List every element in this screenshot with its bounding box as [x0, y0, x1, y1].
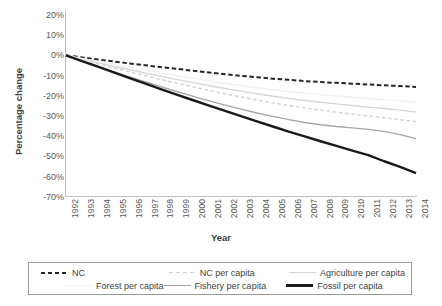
- x-tick-label: 1997: [150, 199, 160, 218]
- x-tick-label: 2003: [245, 199, 255, 218]
- legend-label: Agriculture per capita: [320, 268, 405, 278]
- x-tick-label: 1992: [70, 199, 80, 218]
- x-axis-title: Year: [0, 232, 442, 243]
- x-tick-label: 2009: [340, 199, 350, 218]
- x-tick-label: 2013: [404, 199, 414, 218]
- legend-item-fishery-per-capita[interactable]: Fishery per capita: [164, 279, 287, 292]
- x-tick-label: 1995: [118, 199, 128, 218]
- x-tick-label: 2010: [356, 199, 366, 218]
- chart-legend: NC NC per capita Agriculture per capita …: [28, 262, 412, 295]
- legend-swatch-icon: [65, 285, 92, 287]
- legend-label: Fishery per capita: [195, 281, 267, 291]
- legend-label: Forest per capita: [96, 281, 164, 291]
- legend-label: Fossil per capita: [317, 281, 383, 291]
- x-tick-label: 2004: [261, 199, 271, 218]
- legend-row: NC NC per capita Agriculture per capita: [33, 266, 407, 279]
- x-tick-label: 1999: [181, 199, 191, 218]
- x-tick-label: 1993: [86, 199, 96, 218]
- x-tick-label: 2001: [213, 199, 223, 218]
- legend-label: NC per capita: [200, 268, 255, 278]
- legend-row: Forest per capita Fishery per capita Fos…: [33, 279, 407, 292]
- legend-item-nc[interactable]: NC: [33, 266, 169, 279]
- chart-root: Percentage change 20%10%0%-10%-20%-30%-4…: [0, 0, 442, 306]
- legend-swatch-icon: [289, 272, 316, 274]
- x-tick-label: 2006: [293, 199, 303, 218]
- legend-swatch-icon: [286, 284, 313, 287]
- legend-swatch-icon: [169, 272, 196, 274]
- x-tick-label: 1994: [102, 199, 112, 218]
- x-tick-label: 2002: [229, 199, 239, 218]
- legend-swatch-icon: [164, 285, 191, 287]
- series-line-fossil-per-capita: [66, 55, 416, 173]
- legend-item-agriculture-per-capita[interactable]: Agriculture per capita: [289, 266, 407, 279]
- x-tick-label: 2014: [420, 199, 430, 218]
- x-tick-label: 2011: [372, 199, 382, 217]
- legend-swatch-icon: [41, 272, 68, 274]
- x-tick-label: 2012: [388, 199, 398, 218]
- x-tick-label: 2008: [325, 199, 335, 218]
- x-tick-label: 2000: [197, 199, 207, 218]
- plot-area: Percentage change 20%10%0%-10%-20%-30%-4…: [0, 0, 442, 250]
- x-tick-label: 1996: [134, 199, 144, 218]
- series-line-nc: [66, 55, 416, 87]
- legend-item-nc-per-capita[interactable]: NC per capita: [169, 266, 289, 279]
- x-tick-label: 2005: [277, 199, 287, 218]
- legend-item-fossil-per-capita[interactable]: Fossil per capita: [286, 279, 407, 292]
- x-tick-label: 2007: [309, 199, 319, 218]
- legend-label: NC: [72, 268, 85, 278]
- x-tick-label: 1998: [165, 199, 175, 218]
- legend-item-forest-per-capita[interactable]: Forest per capita: [33, 279, 164, 292]
